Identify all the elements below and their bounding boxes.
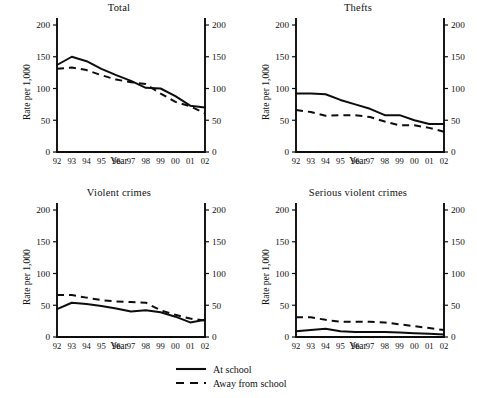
y-tick-label-right: 200 xyxy=(212,20,226,30)
series-line-dashed xyxy=(57,295,205,320)
plot-area-violent-crimes: 0050501001001501502002009293949596979899… xyxy=(0,185,238,365)
y-tick-label: 50 xyxy=(41,116,51,126)
legend-entry-at-school: At school xyxy=(175,362,287,376)
series-line-dashed xyxy=(296,110,444,132)
y-tick-label-right: 200 xyxy=(212,205,226,215)
series-line-solid xyxy=(296,329,444,335)
y-tick-label: 200 xyxy=(275,20,289,30)
plot-area-thefts: 0050501001001501502002009293949596979899… xyxy=(239,0,477,180)
legend-label: At school xyxy=(213,364,252,375)
series-line-solid xyxy=(296,94,444,124)
plot-area-serious-violent-crimes: 0050501001001501502002009293949596979899… xyxy=(239,185,477,365)
y-tick-label-right: 150 xyxy=(212,52,226,62)
y-tick-label: 150 xyxy=(275,237,289,247)
y-tick-label: 200 xyxy=(36,20,50,30)
y-tick-label-right: 50 xyxy=(451,116,461,126)
y-tick-label: 150 xyxy=(36,52,50,62)
series-line-solid xyxy=(57,303,205,323)
y-tick-label-right: 50 xyxy=(212,116,222,126)
y-tick-label: 200 xyxy=(36,205,50,215)
series-line-dashed xyxy=(57,68,205,114)
chart-panel-thefts: Thefts Rate per 1,000 005050100100150150… xyxy=(239,0,477,180)
chart-panel-total: Total Rate per 1,000 0050501001001501502… xyxy=(0,0,238,180)
y-tick-label: 100 xyxy=(275,84,289,94)
y-tick-label-right: 50 xyxy=(451,301,461,311)
y-tick-label-right: 100 xyxy=(212,269,226,279)
y-tick-label-right: 150 xyxy=(212,237,226,247)
legend-label: Away from school xyxy=(213,378,287,389)
y-tick-label: 150 xyxy=(36,237,50,247)
chart-panel-grid: Total Rate per 1,000 0050501001001501502… xyxy=(0,0,477,360)
series-line-dashed xyxy=(296,317,444,330)
plot-area-total: 0050501001001501502002009293949596979899… xyxy=(0,0,238,180)
x-axis-label: Year xyxy=(0,341,238,351)
chart-panel-serious-violent-crimes: Serious violent crimes Rate per 1,000 00… xyxy=(239,185,477,365)
y-tick-label-right: 100 xyxy=(212,84,226,94)
y-tick-label: 100 xyxy=(275,269,289,279)
y-tick-label-right: 100 xyxy=(451,84,465,94)
four-panel-line-chart-figure: Total Rate per 1,000 0050501001001501502… xyxy=(0,0,477,398)
chart-panel-violent-crimes: Violent crimes Rate per 1,000 0050501001… xyxy=(0,185,238,365)
y-tick-label: 50 xyxy=(280,116,290,126)
dashed-line-swatch xyxy=(175,378,207,388)
legend-entry-away-from-school: Away from school xyxy=(175,376,287,390)
y-tick-label: 200 xyxy=(275,205,289,215)
x-axis-label: Year xyxy=(239,156,477,166)
y-tick-label-right: 150 xyxy=(451,52,465,62)
y-tick-label: 50 xyxy=(280,301,290,311)
y-tick-label: 150 xyxy=(275,52,289,62)
y-tick-label-right: 50 xyxy=(212,301,222,311)
x-axis-label: Year xyxy=(0,156,238,166)
y-tick-label: 100 xyxy=(36,84,50,94)
y-tick-label-right: 100 xyxy=(451,269,465,279)
chart-legend: At school Away from school xyxy=(0,360,477,398)
y-tick-label-right: 200 xyxy=(451,205,465,215)
y-tick-label-right: 150 xyxy=(451,237,465,247)
solid-line-swatch xyxy=(175,364,207,374)
y-tick-label: 50 xyxy=(41,301,51,311)
y-tick-label-right: 200 xyxy=(451,20,465,30)
y-tick-label: 100 xyxy=(36,269,50,279)
x-axis-label: Year xyxy=(239,341,477,351)
